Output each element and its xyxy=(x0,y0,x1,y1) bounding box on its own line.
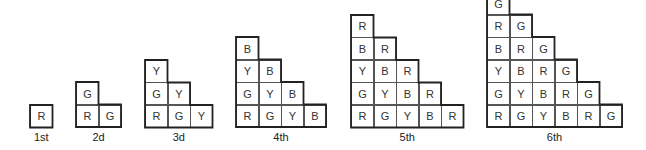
grid-cell: B xyxy=(259,60,282,83)
grid-cell: R xyxy=(396,60,419,83)
grid-cell: R xyxy=(487,105,510,128)
grid-cell: G xyxy=(236,82,259,105)
grid-cell: G xyxy=(374,105,397,128)
grid-cell: R xyxy=(510,37,533,60)
grid-cell: G xyxy=(487,0,510,15)
grid-cell: Y xyxy=(236,60,259,83)
grid-cell: G xyxy=(168,105,191,128)
grid-cell: Y xyxy=(532,105,555,128)
grid-cell: B xyxy=(532,82,555,105)
grid-cell: R xyxy=(236,105,259,128)
grid-cell: Y xyxy=(374,82,397,105)
figure-label: 2d xyxy=(69,131,129,143)
grid-cell: G xyxy=(76,82,99,105)
grid-cell: G xyxy=(577,82,600,105)
grid-cell: G xyxy=(510,15,533,38)
grid-cell: B xyxy=(374,60,397,83)
grid-cell: G xyxy=(487,82,510,105)
figure-label: 5th xyxy=(377,131,437,143)
grid-cell: G xyxy=(600,105,623,128)
grid-cell: Y xyxy=(281,105,304,128)
figure-label: 3d xyxy=(149,131,209,143)
grid-cell: R xyxy=(532,60,555,83)
figure-label: 1st xyxy=(11,131,71,143)
grid-cell: G xyxy=(555,60,578,83)
figure-label: 4th xyxy=(251,131,311,143)
grid-cell: B xyxy=(555,105,578,128)
grid-cell: R xyxy=(419,82,442,105)
grid-cell: R xyxy=(441,105,464,128)
grid-cell: R xyxy=(555,82,578,105)
grid-cell: G xyxy=(99,105,122,128)
grid-cell: B xyxy=(281,82,304,105)
grid-cell: B xyxy=(419,105,442,128)
grid-cell: B xyxy=(487,37,510,60)
grid-cell: Y xyxy=(487,60,510,83)
grid-cell: Y xyxy=(145,60,168,83)
grid-cell: Y xyxy=(190,105,213,128)
grid-cell: R xyxy=(487,15,510,38)
figure-label: 6th xyxy=(525,131,585,143)
grid-cell: B xyxy=(236,37,259,60)
grid-cell: Y xyxy=(259,82,282,105)
grid-cell: G xyxy=(145,82,168,105)
grid-cell: R xyxy=(577,105,600,128)
grid-cell: G xyxy=(510,105,533,128)
grid-cell: B xyxy=(304,105,327,128)
grid-cell: G xyxy=(532,37,555,60)
grid-cell: R xyxy=(30,105,53,128)
grid-cell: B xyxy=(510,60,533,83)
grid-cell: R xyxy=(374,37,397,60)
grid-cell: B xyxy=(396,82,419,105)
grid-cell: R xyxy=(351,105,374,128)
grid-cell: R xyxy=(145,105,168,128)
grid-cell: Y xyxy=(510,82,533,105)
grid-cell: Y xyxy=(351,60,374,83)
grid-cell: R xyxy=(76,105,99,128)
grid-cell: G xyxy=(351,82,374,105)
grid-cell: B xyxy=(351,37,374,60)
grid-cell: Y xyxy=(168,82,191,105)
grid-cell: R xyxy=(351,15,374,38)
grid-cell: G xyxy=(259,105,282,128)
grid-cell: Y xyxy=(396,105,419,128)
